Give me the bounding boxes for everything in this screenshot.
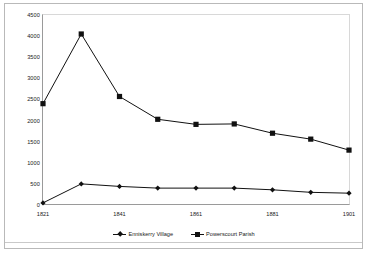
data-point[interactable] xyxy=(40,200,45,205)
data-point[interactable] xyxy=(308,137,313,142)
data-point[interactable] xyxy=(270,131,275,136)
data-point[interactable] xyxy=(79,181,84,186)
legend-item-powerscourt-parish[interactable]: Powerscourt Parish xyxy=(191,231,255,238)
data-point[interactable] xyxy=(155,186,160,191)
series-line-powerscourt-parish xyxy=(43,34,349,150)
data-point[interactable] xyxy=(117,184,122,189)
legend-label-enniskerry-village: Enniskerry Village xyxy=(128,231,173,238)
data-point[interactable] xyxy=(346,191,351,196)
data-point[interactable] xyxy=(79,31,84,36)
chart-figure: 050010001500200025003000350040004500 182… xyxy=(0,0,368,254)
data-point[interactable] xyxy=(155,117,160,122)
legend-item-enniskerry-village[interactable]: Enniskerry Village xyxy=(113,231,173,238)
data-point[interactable] xyxy=(270,187,275,192)
data-point[interactable] xyxy=(232,186,237,191)
data-point[interactable] xyxy=(40,101,45,106)
data-point[interactable] xyxy=(346,148,351,153)
legend-separator xyxy=(5,242,362,243)
data-point[interactable] xyxy=(232,121,237,126)
diamond-marker-icon xyxy=(113,231,126,238)
data-point[interactable] xyxy=(193,186,198,191)
data-point[interactable] xyxy=(193,122,198,127)
chart-series-layer xyxy=(0,0,368,254)
data-point[interactable] xyxy=(117,94,122,99)
chart-legend: Enniskerry Village Powerscourt Parish xyxy=(0,231,368,238)
square-marker-icon xyxy=(191,231,204,238)
data-point[interactable] xyxy=(308,190,313,195)
legend-label-powerscourt-parish: Powerscourt Parish xyxy=(206,231,255,238)
